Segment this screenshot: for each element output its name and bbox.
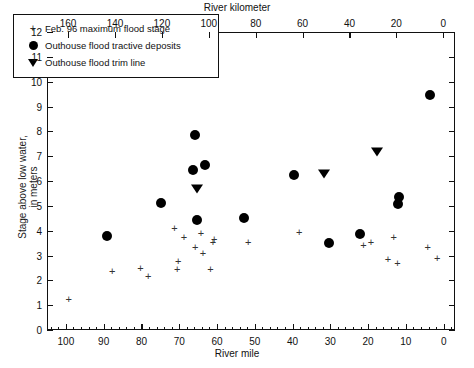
axis-tick (449, 305, 455, 306)
axis-tick (349, 32, 350, 38)
y-axis-tick-label: 10 (16, 76, 42, 87)
data-point-plus (108, 267, 117, 276)
x-axis-tick-label-bottom: 100 (58, 336, 75, 347)
data-point-plus (180, 232, 189, 241)
axis-tick (429, 327, 430, 331)
legend-label: Outhouse flood trim line (45, 57, 145, 68)
data-point-plus (384, 254, 393, 263)
y-axis-tick-label: 1 (16, 300, 42, 311)
filled-circle-marker-icon (21, 41, 45, 50)
x-axis-tick-label-bottom: 50 (249, 336, 260, 347)
axis-tick (47, 280, 53, 281)
axis-tick (421, 327, 422, 331)
data-point-triangle (318, 170, 330, 179)
x-axis-tick-label-bottom: 0 (441, 336, 447, 347)
axis-tick (157, 327, 158, 331)
axis-tick (134, 327, 135, 331)
axis-tick (255, 324, 256, 330)
legend-item-tractive-deposits: Outhouse flood tractive deposits (21, 37, 211, 54)
axis-tick (149, 327, 150, 331)
x-axis-tick-label-top: 20 (391, 18, 402, 29)
data-point-circle (200, 160, 210, 170)
axis-tick (376, 327, 377, 331)
data-point-plus (393, 258, 402, 267)
data-point-plus (367, 237, 376, 246)
axis-tick (436, 327, 437, 331)
axis-tick (47, 107, 53, 108)
data-point-plus (433, 253, 442, 262)
data-point-circle (190, 130, 200, 140)
x-axis-tick-label-bottom: 80 (136, 336, 147, 347)
axis-tick (104, 324, 105, 330)
axis-tick (396, 32, 397, 38)
axis-tick (58, 327, 59, 331)
axis-tick (209, 327, 210, 331)
axis-tick (330, 324, 331, 330)
axis-tick (413, 327, 414, 331)
data-point-circle (188, 165, 198, 175)
x-axis-tick-label-bottom: 30 (325, 336, 336, 347)
axis-tick (202, 327, 203, 331)
axis-tick (361, 327, 362, 331)
axis-tick (47, 82, 53, 83)
data-point-plus (244, 237, 253, 246)
y-axis-tick-label: 2 (16, 275, 42, 286)
x-axis-tick-label-top: 120 (154, 18, 171, 29)
axis-tick (270, 327, 271, 331)
data-point-circle (425, 90, 435, 100)
y-axis-tick-label: 5 (16, 200, 42, 211)
x-axis-tick-label-top: 100 (200, 18, 217, 29)
axis-tick (323, 327, 324, 331)
axis-tick (47, 206, 53, 207)
data-point-circle (239, 213, 249, 223)
x-axis-tick-label-top: 0 (440, 18, 446, 29)
axis-tick (172, 327, 173, 331)
axis-tick (47, 305, 53, 306)
scatter-chart-figure: River kilometer Stage above low water, i… (0, 0, 474, 368)
data-point-plus (197, 228, 206, 237)
y-axis-tick-label: 3 (16, 250, 42, 261)
x-axis-tick-label-top: 160 (60, 18, 77, 29)
axis-tick (47, 32, 53, 33)
axis-tick (115, 32, 116, 38)
x-axis-tick-label-bottom: 20 (363, 336, 374, 347)
axis-tick (338, 327, 339, 331)
x-axis-tick-label-top: 40 (344, 18, 355, 29)
axis-tick (315, 327, 316, 331)
axis-tick (406, 324, 407, 330)
data-point-plus (144, 272, 153, 281)
x-axis-tick-label-top: 80 (250, 18, 261, 29)
axis-tick (449, 231, 455, 232)
axis-tick (262, 327, 263, 331)
axis-tick (66, 324, 67, 330)
axis-tick (449, 181, 455, 182)
data-point-plus (295, 227, 304, 236)
data-point-circle (156, 198, 166, 208)
axis-tick (383, 327, 384, 331)
axis-tick (225, 327, 226, 331)
data-point-plus (136, 263, 145, 272)
axis-tick (308, 327, 309, 331)
y-axis-tick-label: 11 (16, 51, 42, 62)
data-point-plus (173, 264, 182, 273)
data-point-circle (393, 199, 403, 209)
data-point-circle (324, 238, 334, 248)
axis-tick (247, 327, 248, 331)
axis-tick (141, 324, 142, 330)
axis-tick (449, 206, 455, 207)
axis-tick (209, 32, 210, 38)
axis-tick (449, 256, 455, 257)
data-point-plus (64, 294, 73, 303)
axis-tick (449, 82, 455, 83)
x-axis-tick-label-bottom: 60 (211, 336, 222, 347)
y-axis-tick-label: 8 (16, 126, 42, 137)
axis-tick (300, 327, 301, 331)
axis-tick (285, 327, 286, 331)
axis-tick (162, 32, 163, 38)
axis-tick (240, 327, 241, 331)
data-point-plus (198, 248, 207, 257)
axis-tick (449, 131, 455, 132)
top-axis-title: River kilometer (0, 2, 474, 13)
axis-tick (47, 131, 53, 132)
axis-tick (187, 327, 188, 331)
